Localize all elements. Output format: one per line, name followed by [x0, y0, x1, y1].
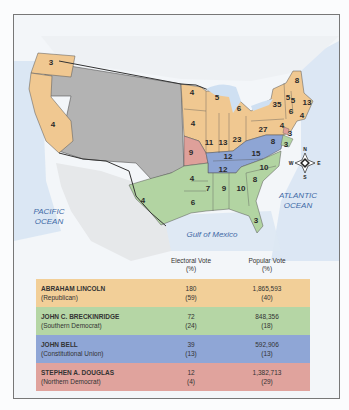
state-vote-wisconsin: 5 [215, 93, 220, 102]
state-vote-michigan: 6 [237, 104, 242, 113]
party-name: (Constitutional Union) [41, 349, 158, 358]
state-vote-delaware: 3 [288, 129, 293, 138]
electoral-vote-cell: 39(13) [158, 340, 224, 358]
candidate-name: JOHN BELL [41, 340, 158, 349]
popular-vote-cell: 1,382,713(29) [224, 368, 310, 386]
legend-row: JOHN BELL(Constitutional Union)39(13)592… [36, 335, 310, 363]
popular-vote-pct: (40) [224, 293, 310, 302]
state-vote-mississippi: 7 [206, 184, 211, 193]
state-vote-md-3: 3 [284, 140, 289, 149]
state-vote-maine: 8 [295, 76, 300, 85]
candidate-cell: JOHN C. BRECKINRIDGE(Southern Democrat) [36, 312, 158, 330]
popular-vote-pct: (29) [224, 377, 310, 386]
popular-vote-pct: (13) [224, 349, 310, 358]
state-vote-ohio: 23 [233, 135, 242, 144]
candidate-name: JOHN C. BRECKINRIDGE [41, 312, 158, 321]
party-name: (Northern Democrat) [41, 377, 158, 386]
state-vote-minnesota: 4 [190, 88, 195, 97]
state-vote-kentucky: 12 [224, 152, 233, 161]
pacific-label-1: PACIFIC [34, 207, 65, 216]
state-vote-missouri: 9 [189, 148, 194, 157]
popular-vote: 848,356 [224, 312, 310, 321]
candidate-cell: JOHN BELL(Constitutional Union) [36, 340, 158, 358]
state-vote-oregon: 3 [49, 58, 54, 67]
party-name: (Republican) [41, 293, 158, 302]
state-vote-texas: 4 [141, 196, 146, 205]
state-vote-alabama: 9 [222, 184, 227, 193]
map-frame: 3445641113232735558136443839121512108446… [13, 14, 340, 399]
candidate-name: ABRAHAM LINCOLN [41, 284, 158, 293]
electoral-vote-header: Electoral Vote (%) [158, 251, 224, 279]
state-vote-north-carolina: 10 [260, 163, 269, 172]
legend-row: ABRAHAM LINCOLN(Republican)180(59)1,865,… [36, 279, 310, 307]
legend-header: Electoral Vote (%) Popular Vote (%) [36, 251, 310, 279]
electoral-vote-pct: (59) [158, 293, 224, 302]
electoral-vote: 72 [158, 312, 224, 321]
popular-vote: 1,382,713 [224, 368, 310, 377]
popular-vote-pct: (18) [224, 321, 310, 330]
results-legend: Electoral Vote (%) Popular Vote (%) ABRA… [36, 251, 310, 391]
legend-row: STEPHEN A. DOUGLAS(Northern Democrat)12(… [36, 363, 310, 391]
state-vote-louisiana: 6 [191, 198, 196, 207]
electoral-vote: 12 [158, 368, 224, 377]
popular-vote: 1,865,593 [224, 284, 310, 293]
candidate-cell: STEPHEN A. DOUGLAS(Northern Democrat) [36, 368, 158, 386]
popular-vote-cell: 848,356(18) [224, 312, 310, 330]
party-name: (Southern Democrat) [41, 321, 158, 330]
popular-vote-cell: 1,865,593(40) [224, 284, 310, 302]
state-vote-indiana: 13 [219, 138, 228, 147]
electoral-vote-pct: (13) [158, 349, 224, 358]
state-vote-georgia: 10 [237, 184, 246, 193]
electoral-vote-cell: 72(24) [158, 312, 224, 330]
gulf-label: Gulf of Mexico [186, 230, 238, 239]
candidate-cell: ABRAHAM LINCOLN(Republican) [36, 284, 158, 302]
atlantic-label-1: ATLANTIC [278, 191, 317, 200]
state-vote-new-york: 35 [273, 100, 282, 109]
state-vote-new-jersey: 4 [280, 121, 285, 130]
state-vote-pennsylvania: 27 [259, 125, 268, 134]
electoral-vote-pct: (24) [158, 321, 224, 330]
state-vote-rhode-island: 4 [300, 111, 305, 120]
electoral-vote: 180 [158, 284, 224, 293]
state-vote-virginia: 15 [252, 149, 261, 158]
svg-text:N: N [303, 146, 307, 152]
candidate-name: STEPHEN A. DOUGLAS [41, 368, 158, 377]
popular-vote: 592,906 [224, 340, 310, 349]
pacific-label-2: OCEAN [35, 217, 64, 226]
state-vote-south-carolina: 8 [253, 175, 258, 184]
popular-vote-cell: 592,906(13) [224, 340, 310, 358]
state-vote-massachusetts: 13 [303, 98, 312, 107]
state-vote-california: 4 [51, 120, 56, 129]
popular-vote-header: Popular Vote (%) [224, 251, 310, 279]
state-vote-maryland: 8 [271, 137, 276, 146]
electoral-vote-cell: 180(59) [158, 284, 224, 302]
electoral-vote-cell: 12(4) [158, 368, 224, 386]
state-vote-connecticut: 6 [289, 107, 294, 116]
legend-row: JOHN C. BRECKINRIDGE(Southern Democrat)7… [36, 307, 310, 335]
state-vote-illinois: 11 [205, 138, 214, 147]
state-vote-arkansas: 4 [190, 174, 195, 183]
electoral-vote: 39 [158, 340, 224, 349]
state-vote-new-hampshire: 5 [291, 96, 296, 105]
svg-text:W: W [289, 160, 294, 166]
state-vote-tennessee: 12 [219, 165, 228, 174]
state-vote-florida: 3 [254, 216, 259, 225]
atlantic-label-2: OCEAN [284, 201, 313, 210]
state-vote-iowa: 4 [191, 119, 196, 128]
electoral-vote-pct: (4) [158, 377, 224, 386]
